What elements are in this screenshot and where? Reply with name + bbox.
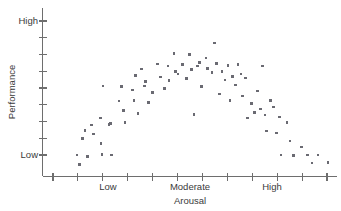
scatter-point <box>109 122 112 125</box>
scatter-point <box>241 95 244 98</box>
x-axis-title: Arousal <box>174 195 206 206</box>
scatter-point <box>120 85 123 88</box>
scatter-point <box>156 63 159 66</box>
scatter-point <box>206 67 209 70</box>
x-tick-label-high: High <box>262 181 282 192</box>
scatter-point <box>205 57 208 60</box>
scatter-point <box>86 155 89 158</box>
scatter-point <box>227 64 230 67</box>
scatter-point <box>102 85 105 88</box>
scatter-point <box>215 62 218 65</box>
scatter-point <box>317 154 320 157</box>
scatter-point <box>134 74 137 77</box>
scatter-point <box>244 77 247 80</box>
scatter-point <box>118 100 121 103</box>
scatter-point <box>174 70 177 73</box>
scatter-point <box>265 130 268 133</box>
scatter-point <box>261 65 264 68</box>
scatter-point <box>84 129 87 132</box>
scatter-point <box>168 79 171 82</box>
scatter-point <box>193 113 196 116</box>
scatter-point <box>286 121 289 124</box>
scatter-point <box>76 154 79 157</box>
scatter-point <box>259 108 262 111</box>
scatter-point <box>246 117 249 120</box>
scatter-point <box>151 91 154 94</box>
x-tick-label-moderate: Moderate <box>170 181 210 192</box>
scatter-point <box>250 102 253 105</box>
scatter-point <box>159 76 162 79</box>
y-axis-group: High Low Performance <box>6 8 47 176</box>
scatter-point <box>122 109 125 112</box>
scatter-point <box>327 161 330 164</box>
plot-canvas: High Low Performance Low Moderate High A… <box>0 0 341 211</box>
scatter-point <box>300 146 303 149</box>
scatter-point <box>211 71 214 74</box>
scatter-point <box>137 112 140 115</box>
scatter-point <box>101 153 104 156</box>
scatter-point <box>200 85 203 88</box>
scatter-point <box>90 124 93 127</box>
scatter-plot-figure: High Low Performance Low Moderate High A… <box>0 0 341 211</box>
scatter-point <box>163 87 166 90</box>
scatter-point <box>234 84 237 87</box>
scatter-point <box>218 93 221 96</box>
scatter-point <box>306 154 309 157</box>
y-tick-label-low: Low <box>21 149 39 160</box>
scatter-points-layer <box>76 42 330 166</box>
scatter-point <box>292 154 295 157</box>
scatter-point <box>240 73 243 76</box>
scatter-point <box>190 68 193 71</box>
scatter-point <box>272 106 275 109</box>
scatter-point <box>198 61 201 64</box>
scatter-point <box>289 140 292 143</box>
scatter-point <box>124 121 127 124</box>
scatter-point <box>269 99 272 102</box>
y-tick-label-high: High <box>18 15 38 26</box>
scatter-point <box>213 42 216 45</box>
scatter-point <box>188 53 191 56</box>
scatter-point <box>144 80 147 83</box>
scatter-point <box>173 52 176 55</box>
scatter-point <box>143 85 146 88</box>
scatter-point <box>264 114 267 117</box>
scatter-point <box>181 63 184 66</box>
scatter-point <box>275 132 278 135</box>
scatter-point <box>78 163 81 166</box>
scatter-point <box>147 101 150 104</box>
scatter-point <box>81 137 84 140</box>
scatter-point <box>231 75 234 78</box>
scatter-point <box>99 117 102 120</box>
scatter-point <box>185 77 188 80</box>
scatter-point <box>196 65 199 68</box>
scatter-point <box>140 68 143 71</box>
scatter-point <box>131 89 134 92</box>
scatter-point <box>100 142 103 145</box>
y-axis-title: Performance <box>6 65 17 119</box>
scatter-point <box>311 162 314 165</box>
scatter-point <box>133 99 136 102</box>
scatter-point <box>167 65 170 68</box>
scatter-point <box>221 70 224 73</box>
scatter-point <box>256 90 259 93</box>
x-tick-label-low: Low <box>99 181 117 192</box>
x-axis-group: Low Moderate High Arousal <box>43 173 338 207</box>
scatter-point <box>237 63 240 66</box>
scatter-point <box>278 116 281 119</box>
scatter-point <box>280 154 283 157</box>
scatter-point <box>253 111 256 114</box>
scatter-point <box>224 79 227 82</box>
scatter-point <box>177 73 180 76</box>
scatter-point <box>110 154 113 157</box>
scatter-point <box>92 133 95 136</box>
scatter-point <box>229 99 232 102</box>
